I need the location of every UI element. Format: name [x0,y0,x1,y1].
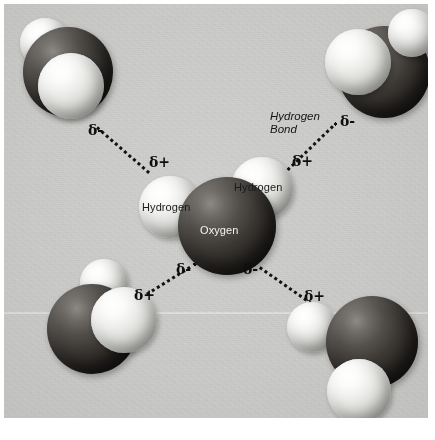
delta-positive-lower-left: δ+ [134,288,155,302]
hydrogen-atom-sphere [38,53,104,119]
delta-negative-lower-left: δ- [176,262,191,276]
hydrogen-right-label: Hydrogen [234,182,283,193]
delta-positive-upper-right: δ+ [292,154,313,168]
hydrogen-atom-sphere [327,359,391,418]
hydrogen-left-label: Hydrogen [142,202,191,213]
delta-positive-upper-left: δ+ [149,155,170,169]
hydrogen-atom-sphere [325,29,391,95]
illustration-plate: Hydrogen Hydrogen Oxygen Hydrogen Bond δ… [4,4,428,418]
hydrogen-bond-callout-line1: Hydrogen [270,110,320,123]
hydrogen-bond-callout-line2: Bond [270,123,320,136]
delta-negative-upper-right: δ- [340,114,355,128]
water-hydrogen-bonding-figure: Hydrogen Hydrogen Oxygen Hydrogen Bond δ… [0,0,435,440]
hydrogen-bond-line-upper-left [96,126,150,174]
hydrogen-atom-sphere [388,9,428,57]
delta-positive-lower-right: δ+ [304,289,325,303]
delta-negative-upper-left: δ- [88,123,103,137]
hydrogen-bond-callout: Hydrogen Bond [270,110,320,135]
delta-negative-lower-right: δ- [243,262,258,276]
oxygen-label: Oxygen [200,225,239,236]
